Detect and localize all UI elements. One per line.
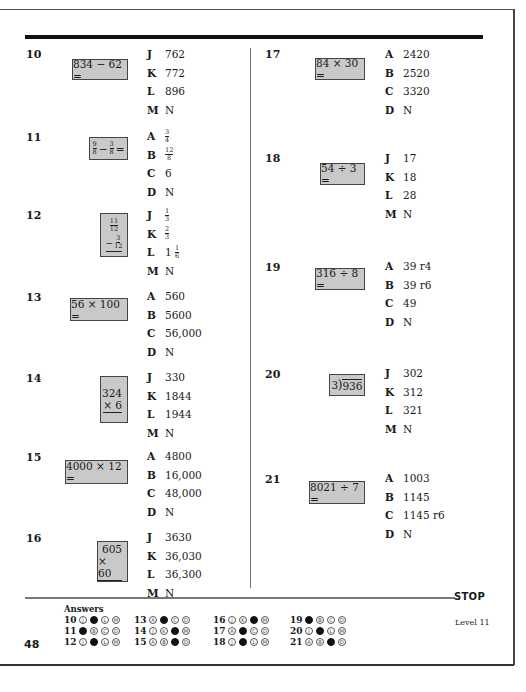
choice-letter: A: [147, 450, 165, 462]
choice-option[interactable]: L1944: [147, 405, 192, 424]
choice-option[interactable]: B39 r6: [385, 276, 431, 295]
choice-option[interactable]: MN: [147, 101, 185, 120]
filled-bubble-icon: L: [250, 616, 258, 624]
answer-bubble-icon: D: [112, 627, 120, 635]
choice-list: J330 K1844 L1944 MN: [147, 368, 192, 442]
filled-bubble-icon: B: [239, 627, 247, 635]
answer-key-number: 17: [213, 626, 228, 636]
choice-option[interactable]: K18: [385, 168, 416, 187]
choice-option[interactable]: MN: [147, 584, 202, 603]
question-number: 19: [265, 261, 280, 274]
problem-bottom: × 6: [103, 399, 122, 413]
choice-option[interactable]: B1145: [385, 488, 445, 507]
choice-letter: C: [385, 85, 403, 97]
fraction: 312: [114, 235, 122, 250]
answer-bubble-icon: K: [239, 616, 247, 624]
choice-option[interactable]: A4800: [147, 447, 202, 466]
choice-letter: K: [385, 386, 403, 398]
choice-value: N: [403, 316, 412, 328]
answer-bubble-icon: J: [79, 616, 87, 624]
choice-option[interactable]: K1844: [147, 387, 192, 406]
choice-option[interactable]: MN: [147, 424, 192, 443]
choice-value: 321: [403, 404, 423, 416]
choice-option[interactable]: MN: [385, 420, 423, 439]
choice-option[interactable]: C6: [147, 164, 174, 183]
answer-bubble-icon: M: [338, 627, 346, 635]
choice-option[interactable]: A560: [147, 287, 202, 306]
problem-box: 98 − 38 =: [89, 137, 128, 160]
choice-option[interactable]: MN: [147, 262, 179, 281]
choice-option[interactable]: DN: [385, 101, 430, 120]
problem-box: 1112 −312: [100, 213, 128, 257]
choice-option[interactable]: DN: [147, 343, 202, 362]
choice-letter: C: [147, 487, 165, 499]
choice-letter: D: [147, 506, 165, 518]
choice-letter: L: [385, 189, 403, 201]
choice-option[interactable]: B128: [147, 146, 174, 165]
choice-letter: C: [385, 509, 403, 521]
choice-option[interactable]: DN: [147, 183, 174, 202]
answer-bubble-icon: L: [250, 638, 258, 646]
choice-option[interactable]: C48,000: [147, 484, 202, 503]
choice-option[interactable]: J17: [385, 149, 416, 168]
choice-letter: J: [147, 371, 165, 383]
choice-list: J302 K312 L321 MN: [385, 364, 423, 438]
choice-option[interactable]: L1 16: [147, 243, 179, 262]
choice-option[interactable]: K23: [147, 225, 179, 244]
problem-box: 316 ÷ 8 =: [315, 268, 365, 290]
choice-option[interactable]: J762: [147, 45, 185, 64]
choice-option[interactable]: L36,300: [147, 565, 202, 584]
answer-bubble-icon: D: [182, 616, 190, 624]
page-number: 48: [24, 638, 39, 651]
choice-option[interactable]: B16,000: [147, 466, 202, 485]
filled-bubble-icon: C: [171, 638, 179, 646]
answer-bubble-icon: C: [250, 627, 258, 635]
question-number: 21: [265, 473, 280, 486]
choice-list: A34 B128 C6 DN: [147, 127, 174, 201]
choice-value: 302: [403, 367, 423, 379]
fraction: 34: [165, 129, 169, 144]
choice-option[interactable]: DN: [385, 525, 445, 544]
stop-label: STOP: [454, 591, 485, 602]
choice-option[interactable]: C1145 r6: [385, 506, 445, 525]
problem-text: 54 ÷ 3 =: [321, 162, 364, 186]
choice-option[interactable]: MN: [385, 205, 416, 224]
answer-key-number: 14: [134, 626, 149, 636]
choice-letter: K: [147, 390, 165, 402]
choice-option[interactable]: DN: [147, 503, 202, 522]
problem-box: 8021 ÷ 7 =: [309, 481, 365, 504]
choice-option[interactable]: J3630: [147, 528, 202, 547]
choice-letter: A: [147, 290, 165, 302]
choice-option[interactable]: J13: [147, 206, 179, 225]
footer-rule: [25, 597, 455, 599]
choice-option[interactable]: B2520: [385, 64, 430, 83]
answer-key-number: 10: [64, 615, 79, 625]
choice-option[interactable]: A34: [147, 127, 174, 146]
answer-key-row: 10JKLM: [64, 614, 123, 625]
choice-value: 2520: [403, 67, 430, 79]
choice-option[interactable]: L321: [385, 401, 423, 420]
choice-option[interactable]: B5600: [147, 306, 202, 325]
choice-option[interactable]: J302: [385, 364, 423, 383]
choice-option[interactable]: C49: [385, 294, 431, 313]
answer-key-number: 16: [213, 615, 228, 625]
choice-option[interactable]: L896: [147, 82, 185, 101]
answer-key-row: 14JKLM: [134, 625, 193, 636]
choice-option[interactable]: J330: [147, 368, 192, 387]
choice-option[interactable]: A1003: [385, 469, 445, 488]
choice-option[interactable]: A39 r4: [385, 257, 431, 276]
choice-value: N: [403, 104, 412, 116]
choice-option[interactable]: K312: [385, 383, 423, 402]
choice-letter: C: [385, 297, 403, 309]
choice-option[interactable]: C56,000: [147, 324, 202, 343]
answer-bubble-icon: L: [327, 627, 335, 635]
answer-key-row: 19ABCD: [290, 614, 349, 625]
choice-option[interactable]: L28: [385, 186, 416, 205]
choice-option[interactable]: K36,030: [147, 547, 202, 566]
answer-bubble-icon: M: [261, 638, 269, 646]
choice-option[interactable]: C3320: [385, 82, 430, 101]
choice-option[interactable]: A2420: [385, 45, 430, 64]
choice-option[interactable]: K772: [147, 64, 185, 83]
answer-bubble-icon: C: [171, 616, 179, 624]
choice-option[interactable]: DN: [385, 313, 431, 332]
